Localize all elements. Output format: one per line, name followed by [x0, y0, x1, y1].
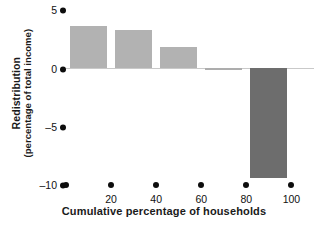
y-axis-title: Redistribution (percentage of total inco… — [0, 0, 40, 195]
y-axis-tick-minus-5: –5 — [45, 120, 66, 133]
y-axis-tick-0: 0 — [51, 62, 66, 75]
x-axis-tick-dot-40 — [153, 182, 159, 188]
x-axis-tick-dot-100 — [288, 182, 294, 188]
y-axis-tick-label-5: 5 — [51, 5, 57, 17]
x-axis-title: Cumulative percentage of households — [0, 205, 328, 217]
y-axis-tick-5: 5 — [51, 3, 66, 16]
plot-area: 5 0 –5 –10 20406080100 — [66, 10, 314, 185]
bar-20 — [70, 26, 107, 68]
x-axis-tick-dot-60 — [198, 182, 204, 188]
y-axis-tick-label-minus-10: –10 — [39, 180, 57, 192]
x-axis-tick-dot-20 — [108, 182, 114, 188]
redistribution-bar-chart: Redistribution (percentage of total inco… — [0, 0, 328, 227]
x-axis-tick-label-20: 20 — [105, 193, 117, 205]
bar-80 — [205, 68, 242, 70]
y-axis-title-line-1: Redistribution — [11, 9, 23, 177]
x-axis-tick-label-60: 60 — [195, 193, 207, 205]
x-axis-tick-label-40: 40 — [150, 193, 162, 205]
y-axis-tick-label-minus-5: –5 — [45, 121, 57, 133]
y-axis-tick-dot-minus-5 — [60, 124, 66, 130]
y-axis-tick-label-0: 0 — [51, 63, 57, 75]
x-axis-tick-label-80: 80 — [241, 193, 253, 205]
y-axis-title-line-2: (percentage of total income) — [23, 9, 34, 177]
x-axis-tick-dot-80 — [243, 182, 249, 188]
bar-40 — [115, 30, 152, 69]
bar-60 — [160, 47, 197, 68]
x-axis-origin-dot — [63, 182, 69, 188]
x-axis-tick-label-100: 100 — [283, 193, 301, 205]
bar-100 — [250, 68, 287, 178]
y-axis-tick-dot-5 — [60, 8, 66, 14]
